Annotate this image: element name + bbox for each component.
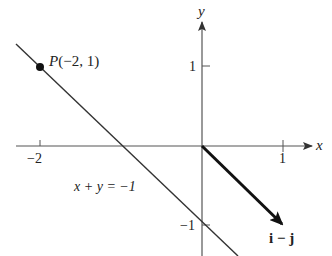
y-tick-label-1: 1 <box>189 59 196 74</box>
point-p-label: P(−2, 1) <box>48 53 99 70</box>
x-tick-label-neg2: −2 <box>27 151 42 166</box>
x-tick-label-1: 1 <box>279 151 286 166</box>
point-p <box>36 63 44 71</box>
vector-label: i − j <box>269 230 294 246</box>
coordinate-diagram: x y −2 1 1 −1 x + y = −1 P(−2, 1) i − j <box>0 0 332 256</box>
y-tick-label-neg1: −1 <box>180 218 195 233</box>
x-axis-label: x <box>315 137 323 153</box>
line-equation-label: x + y = −1 <box>73 179 136 194</box>
y-axis-label: y <box>196 3 205 19</box>
vector-i-minus-j <box>202 146 282 224</box>
